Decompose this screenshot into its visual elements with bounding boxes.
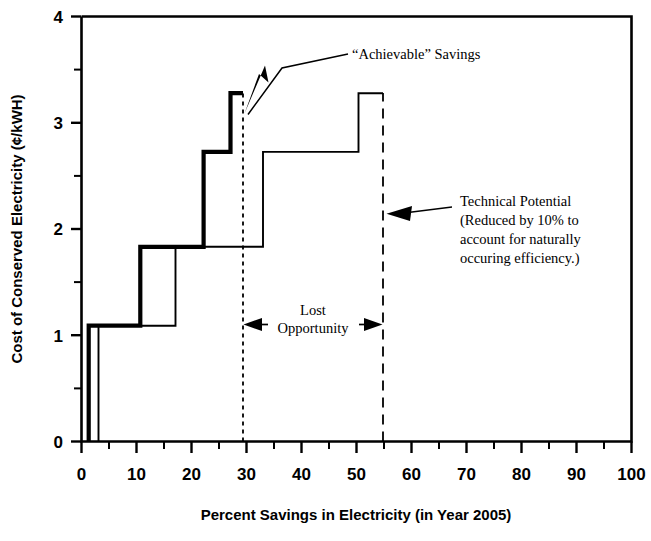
x-tick-labels: 0 10 20 30 40 50 60 70 80 90 100	[77, 465, 646, 484]
x-tick-20: 20	[182, 465, 201, 484]
technical-potential-line2: (Reduced by 10% to	[460, 212, 579, 229]
y-tick-4: 4	[54, 8, 64, 27]
lost-opportunity-annotation: Lost Opportunity	[244, 302, 383, 336]
x-tick-90: 90	[567, 465, 586, 484]
x-tick-0: 0	[77, 465, 86, 484]
achievable-savings-curve	[89, 93, 243, 441]
achievable-savings-annotation: “Achievable” Savings	[245, 46, 481, 115]
lost-opportunity-arrow-right	[364, 318, 383, 331]
x-tick-60: 60	[402, 465, 421, 484]
technical-potential-annotation: Technical Potential (Reduced by 10% to a…	[387, 193, 582, 267]
achievable-arrowhead	[245, 66, 269, 114]
lost-opportunity-line1: Lost	[300, 302, 326, 318]
y-tick-3: 3	[54, 114, 63, 133]
x-tick-50: 50	[347, 465, 366, 484]
x-tick-70: 70	[457, 465, 476, 484]
technical-arrowhead	[387, 206, 413, 221]
y-axis-title: Cost of Conserved Electricity (¢/kWH)	[8, 94, 25, 363]
achievable-leader-line	[248, 54, 348, 115]
y-tick-2: 2	[54, 220, 63, 239]
x-tick-30: 30	[237, 465, 256, 484]
x-tick-80: 80	[512, 465, 531, 484]
technical-potential-line4: occuring efficiency.)	[460, 250, 580, 267]
x-axis-ticks	[82, 442, 632, 454]
x-tick-40: 40	[292, 465, 311, 484]
lost-opportunity-line2: Opportunity	[278, 320, 350, 336]
x-tick-100: 100	[617, 465, 645, 484]
chart-figure: 4 3 2 1 0	[0, 0, 651, 541]
chart-svg: 4 3 2 1 0	[0, 0, 651, 541]
y-axis-ticks	[71, 17, 81, 442]
x-axis-title: Percent Savings in Electricity (in Year …	[201, 506, 512, 523]
boundary-lines	[243, 93, 383, 442]
technical-potential-line3: account for naturally	[460, 231, 582, 247]
y-tick-1: 1	[54, 327, 63, 346]
y-tick-labels: 4 3 2 1 0	[54, 8, 64, 452]
lost-opportunity-arrow-left	[244, 318, 263, 331]
technical-potential-line1: Technical Potential	[460, 193, 571, 209]
x-tick-10: 10	[127, 465, 146, 484]
y-tick-0: 0	[54, 433, 63, 452]
plot-frame	[82, 17, 632, 442]
achievable-savings-label: “Achievable” Savings	[352, 46, 481, 62]
